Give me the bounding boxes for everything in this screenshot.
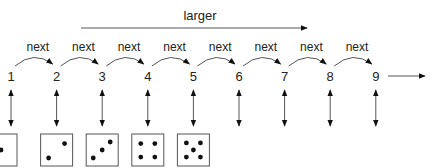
successor-diagram: larger nextnextnextnextnextnextnextnext … [0,0,432,168]
die-pip [152,141,157,146]
number-3: 3 [99,69,106,84]
die-pip [191,148,196,153]
next-label: next [26,40,49,54]
next-arc [106,57,144,66]
die-pip [91,156,96,161]
next-arc [152,57,190,66]
die-2 [41,134,73,166]
larger-arrow-group: larger [81,8,307,28]
next-label: next [209,40,232,54]
next-arc [289,57,327,66]
number-7: 7 [281,69,288,84]
die-pip [46,156,51,161]
number-8: 8 [327,69,334,84]
correspondence-arrows [11,90,376,126]
next-label: next [118,40,141,54]
next-label: next [346,40,369,54]
next-arcs: nextnextnextnextnextnextnextnext [15,40,372,66]
die-pip [138,141,143,146]
next-arc [243,57,281,66]
number-2: 2 [53,69,60,84]
number-6: 6 [235,69,242,84]
next-arc [61,57,99,66]
next-label: next [72,40,95,54]
die-3 [86,134,118,166]
die-pip [198,141,203,146]
die-face [132,134,164,166]
die-pip [184,141,189,146]
next-label: next [163,40,186,54]
number-4: 4 [144,69,151,84]
die-5 [177,134,209,166]
next-arc [197,57,235,66]
die-pip [100,148,105,153]
die-pip [108,140,113,145]
number-5: 5 [190,69,197,84]
dice-row [0,134,209,166]
die-1 [0,134,17,166]
die-pip [152,155,157,160]
die-pip [184,155,189,160]
next-arc [15,57,53,66]
next-label: next [300,40,323,54]
number-1: 1 [7,69,14,84]
number-9: 9 [372,69,379,84]
die-pip [62,141,67,146]
die-pip [138,155,143,160]
number-line: 123456789 [7,69,379,84]
larger-label: larger [183,8,217,23]
die-face [41,134,73,166]
die-pip [198,155,203,160]
next-label: next [254,40,277,54]
die-4 [132,134,164,166]
next-arc [334,57,372,66]
